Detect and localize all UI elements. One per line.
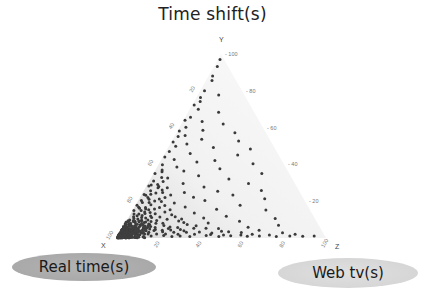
data-point bbox=[154, 212, 157, 215]
data-point bbox=[263, 197, 266, 200]
data-point bbox=[215, 208, 218, 211]
data-point bbox=[166, 186, 169, 189]
data-point bbox=[185, 231, 188, 234]
data-point bbox=[137, 206, 140, 209]
data-point bbox=[227, 177, 230, 180]
data-point bbox=[182, 170, 185, 173]
data-point bbox=[175, 166, 178, 169]
data-point bbox=[168, 150, 171, 153]
data-point bbox=[169, 194, 172, 197]
data-point bbox=[134, 236, 137, 239]
real-time-axis-label: Real time(s) bbox=[12, 253, 156, 281]
data-point bbox=[176, 226, 179, 229]
data-point bbox=[212, 146, 215, 149]
tick-label: 100 bbox=[320, 238, 330, 249]
data-point bbox=[153, 208, 156, 211]
data-point bbox=[161, 191, 164, 194]
data-point bbox=[149, 193, 152, 196]
data-point bbox=[167, 227, 170, 230]
data-point bbox=[247, 226, 250, 229]
data-point bbox=[199, 100, 202, 103]
data-point bbox=[195, 161, 198, 164]
data-point bbox=[294, 233, 297, 236]
data-point bbox=[198, 231, 201, 234]
data-point bbox=[222, 123, 225, 126]
data-point bbox=[197, 108, 200, 111]
data-point bbox=[144, 194, 147, 197]
tick-label: - 80 bbox=[246, 88, 255, 94]
data-point bbox=[288, 234, 291, 237]
data-point bbox=[160, 200, 163, 203]
data-point bbox=[193, 211, 196, 214]
web-tv-label-text: Web tv(s) bbox=[312, 264, 384, 282]
data-point bbox=[154, 192, 157, 195]
data-point bbox=[131, 235, 134, 238]
data-point bbox=[210, 232, 213, 235]
data-point bbox=[251, 233, 254, 236]
data-point bbox=[129, 222, 132, 225]
data-point bbox=[229, 234, 232, 237]
data-point bbox=[201, 129, 204, 132]
data-point bbox=[197, 174, 200, 177]
data-point bbox=[258, 229, 261, 232]
data-point bbox=[260, 172, 263, 175]
data-point bbox=[150, 184, 153, 187]
data-point bbox=[216, 190, 219, 193]
data-point bbox=[153, 200, 156, 203]
data-point bbox=[183, 191, 186, 194]
data-point bbox=[122, 236, 125, 239]
apex-y-label: Y bbox=[219, 36, 224, 43]
data-point bbox=[154, 172, 157, 175]
data-point bbox=[162, 180, 165, 183]
data-point bbox=[123, 234, 126, 237]
tick-label: 60 bbox=[146, 159, 154, 167]
tick-label: 100 bbox=[105, 230, 115, 241]
data-point bbox=[195, 224, 198, 227]
data-point bbox=[152, 179, 155, 182]
real-time-label-text: Real time(s) bbox=[39, 258, 130, 276]
tick-label: 80 bbox=[125, 195, 133, 203]
data-point bbox=[174, 215, 177, 218]
data-point bbox=[164, 196, 167, 199]
data-point bbox=[166, 177, 169, 180]
data-point bbox=[163, 204, 166, 207]
data-point bbox=[157, 186, 160, 189]
data-point bbox=[139, 230, 142, 233]
data-point bbox=[155, 219, 158, 222]
data-point bbox=[174, 145, 177, 148]
data-point bbox=[189, 116, 192, 119]
data-point bbox=[134, 233, 137, 236]
tick-label: 60 bbox=[236, 240, 244, 248]
data-point bbox=[142, 236, 145, 239]
data-point bbox=[202, 217, 205, 220]
data-point bbox=[153, 229, 156, 232]
data-point bbox=[239, 234, 242, 237]
data-point bbox=[192, 227, 195, 230]
data-point bbox=[268, 234, 271, 237]
data-point bbox=[249, 148, 252, 151]
data-point bbox=[220, 230, 223, 233]
tick-label: - 20 bbox=[309, 198, 318, 204]
data-point bbox=[180, 217, 183, 220]
data-point bbox=[146, 219, 149, 222]
data-point bbox=[123, 226, 126, 229]
data-point bbox=[134, 229, 137, 232]
data-point bbox=[138, 226, 141, 229]
data-point bbox=[227, 230, 230, 233]
data-point bbox=[203, 199, 206, 202]
data-point bbox=[222, 233, 225, 236]
data-point bbox=[239, 204, 242, 207]
data-point bbox=[136, 231, 139, 234]
data-point bbox=[144, 208, 147, 211]
data-point bbox=[128, 225, 131, 228]
data-point bbox=[233, 131, 236, 134]
data-point bbox=[252, 162, 255, 165]
data-point bbox=[158, 206, 161, 209]
data-point bbox=[149, 189, 152, 192]
data-point bbox=[160, 176, 163, 179]
tick-label: 20 bbox=[152, 240, 160, 248]
data-point bbox=[264, 209, 267, 212]
data-point bbox=[166, 218, 169, 221]
chart-title: Time shift(s) bbox=[0, 4, 425, 24]
tick-label: 40 bbox=[167, 122, 175, 130]
